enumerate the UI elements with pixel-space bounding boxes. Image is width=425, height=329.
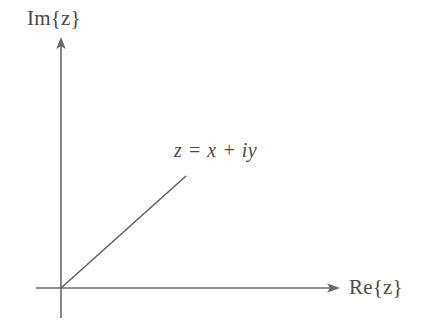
- real-axis-label: Re{z}: [349, 275, 403, 300]
- imaginary-axis-label: Im{z}: [27, 6, 81, 31]
- equation-label: z = x + iy: [174, 139, 257, 162]
- vector-z-line: [61, 176, 186, 288]
- complex-plane-figure: Im{z} Re{z} z = x + iy: [0, 0, 425, 329]
